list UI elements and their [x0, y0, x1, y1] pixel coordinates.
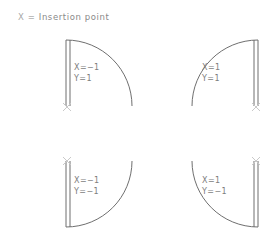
coordinate-label-bottom-right: X=1 Y=−1	[202, 175, 227, 197]
insertion-point-marker	[252, 157, 260, 165]
arc-shape-top-right	[178, 38, 278, 133]
y-value: Y=1	[202, 73, 220, 84]
y-value: Y=1	[74, 73, 100, 84]
x-value: X=−1	[74, 62, 100, 73]
arc-quadrant-bottom-right: X=1 Y=−1	[178, 155, 278, 249]
arc-quadrant-bottom-left: X=−1 Y=−1	[62, 155, 162, 249]
insertion-point-marker	[252, 103, 260, 111]
insertion-point-marker	[63, 103, 71, 111]
arc-shape-bottom-right	[178, 155, 278, 249]
arc-shape-top-left	[62, 38, 162, 133]
x-value: X=1	[202, 175, 227, 186]
y-value: Y=−1	[74, 186, 100, 197]
legend: X = Insertion point	[18, 12, 109, 22]
x-value: X=−1	[74, 175, 100, 186]
arc-shape-bottom-left	[62, 155, 162, 249]
legend-label: = Insertion point	[28, 12, 110, 22]
arc-quadrant-top-left: X=−1 Y=1	[62, 38, 162, 133]
arc-quadrant-top-right: X=1 Y=1	[178, 38, 278, 133]
coordinate-label-top-left: X=−1 Y=1	[74, 62, 100, 84]
coordinate-label-bottom-left: X=−1 Y=−1	[74, 175, 100, 197]
x-value: X=1	[202, 62, 220, 73]
y-value: Y=−1	[202, 186, 227, 197]
diagram-canvas: X = Insertion point X=−1 Y=1 X=1	[0, 0, 278, 249]
insertion-point-icon: X	[18, 12, 24, 22]
coordinate-label-top-right: X=1 Y=1	[202, 62, 220, 84]
